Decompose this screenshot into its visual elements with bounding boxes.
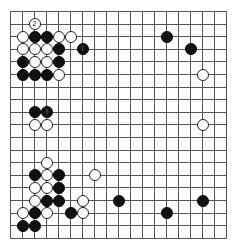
black-stone <box>53 182 65 194</box>
black-stone <box>29 220 41 232</box>
black-stone <box>65 207 77 219</box>
white-stone <box>53 31 65 43</box>
move-number-label: 1 <box>80 46 84 53</box>
black-stone: 3 <box>41 106 53 118</box>
grid-line-vertical <box>166 11 167 239</box>
white-stone <box>197 119 209 131</box>
white-stone <box>65 31 77 43</box>
grid-line-vertical <box>154 11 155 239</box>
white-stone <box>41 169 53 181</box>
black-stone: 1 <box>77 43 89 55</box>
move-number-label: 2 <box>32 21 36 28</box>
black-stone <box>41 195 53 207</box>
black-stone <box>17 69 29 81</box>
grid-line-horizontal <box>10 238 227 239</box>
black-stone <box>29 31 41 43</box>
black-stone <box>41 31 53 43</box>
white-stone <box>197 69 209 81</box>
white-stone <box>41 157 53 169</box>
white-stone <box>29 56 41 68</box>
white-stone: 2 <box>29 18 41 30</box>
black-stone <box>17 220 29 232</box>
white-stone <box>17 31 29 43</box>
white-stone <box>29 119 41 131</box>
grid-line-vertical <box>178 11 179 239</box>
black-stone <box>185 43 197 55</box>
white-stone <box>41 43 53 55</box>
black-stone <box>197 195 209 207</box>
go-board: 213 <box>0 0 233 245</box>
black-stone <box>29 106 41 118</box>
white-stone <box>77 207 89 219</box>
white-stone <box>17 207 29 219</box>
move-number-label: 3 <box>44 109 48 116</box>
white-stone <box>17 43 29 55</box>
black-stone <box>53 43 65 55</box>
white-stone <box>41 182 53 194</box>
grid-line-vertical <box>94 11 95 239</box>
white-stone <box>41 119 53 131</box>
white-stone <box>77 195 89 207</box>
black-stone <box>29 169 41 181</box>
grid-line-vertical <box>214 11 215 239</box>
white-stone <box>29 182 41 194</box>
black-stone <box>53 195 65 207</box>
white-stone <box>29 43 41 55</box>
black-stone <box>41 69 53 81</box>
grid-line-horizontal <box>10 137 227 138</box>
white-stone <box>53 69 65 81</box>
grid-line-vertical <box>70 11 71 239</box>
white-stone <box>89 169 101 181</box>
black-stone <box>161 31 173 43</box>
black-stone <box>53 56 65 68</box>
black-stone <box>161 207 173 219</box>
grid-line-vertical <box>226 11 227 239</box>
black-stone <box>53 169 65 181</box>
grid-line-vertical <box>10 11 11 239</box>
grid-line-horizontal <box>10 150 227 151</box>
grid-line-horizontal <box>10 225 227 226</box>
grid-line-vertical <box>106 11 107 239</box>
white-stone <box>29 195 41 207</box>
black-stone <box>17 56 29 68</box>
white-stone <box>41 56 53 68</box>
black-stone <box>113 195 125 207</box>
grid-line-vertical <box>142 11 143 239</box>
white-stone <box>41 207 53 219</box>
black-stone <box>29 69 41 81</box>
grid-line-vertical <box>130 11 131 239</box>
black-stone <box>29 207 41 219</box>
